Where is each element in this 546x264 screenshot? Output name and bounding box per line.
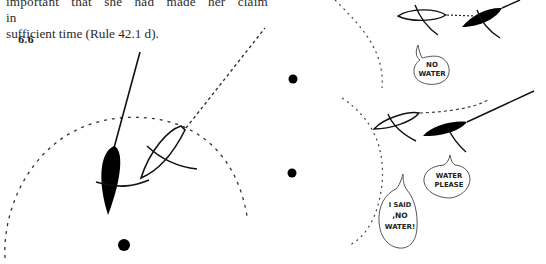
speech-bubble-no-water: NO WATER (414, 45, 449, 84)
black-boat-icon (96, 52, 149, 215)
bubble-text-line: I SAID (389, 201, 412, 209)
bubble-text-line: WATER (436, 172, 463, 180)
speech-bubble-water-please: WATER PLEASE (424, 155, 470, 198)
bubble-text-line: NO (426, 61, 438, 69)
mark-zone-arc (5, 117, 247, 258)
upper-mark-buoy-icon (289, 75, 298, 84)
lower-dashed-trail (420, 100, 488, 113)
lower-white-boat-icon (374, 113, 419, 141)
speech-bubble-i-said-no-water: I SAID ,NO WATER! (379, 174, 417, 248)
mark-buoy-icon (118, 239, 130, 251)
white-boat-icon (141, 126, 197, 178)
upper-white-boat-icon (398, 5, 446, 35)
bubble-text-line: ,NO (392, 211, 408, 220)
lower-black-boat-icon (423, 91, 534, 152)
bubble-text-line: PLEASE (435, 181, 464, 189)
rules-diagram: NO WATER WATER PLEASE I SAID ,NO WATER! (0, 0, 546, 264)
right-diagram: NO WATER WATER PLEASE I SAID ,NO WATER! (288, 0, 535, 248)
bubble-text-line: WATER (418, 70, 446, 78)
lower-mark-buoy-icon (288, 169, 297, 178)
upper-zone-arc (335, 0, 382, 88)
upper-black-boat-icon (462, 0, 520, 38)
upper-overlap-dashed-line (447, 15, 474, 16)
bubble-text-line: WATER! (385, 223, 415, 231)
course-dashed-line (186, 28, 265, 128)
lower-zone-arc (342, 98, 383, 245)
left-diagram (5, 28, 265, 258)
